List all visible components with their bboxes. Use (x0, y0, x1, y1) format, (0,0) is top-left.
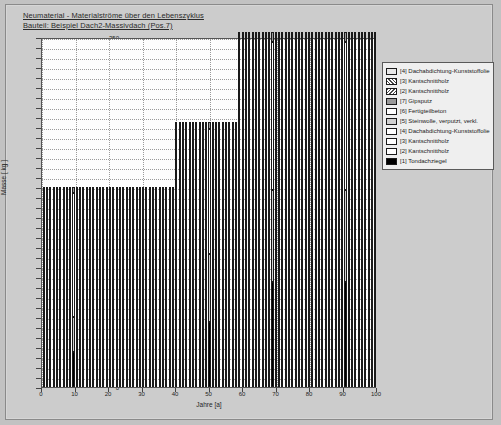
bar-segment (126, 317, 128, 352)
bar-segment (351, 282, 353, 387)
bar-segment (321, 190, 323, 282)
bar-column (315, 32, 317, 387)
bar-segment (159, 193, 161, 317)
bar-segment (222, 322, 224, 387)
bar-segment (374, 282, 376, 387)
legend-item[interactable]: [4] Dachabdichtung-Kunststoffolie (386, 126, 490, 136)
bar-segment (155, 193, 157, 317)
chart-legend[interactable]: [4] Dachabdichtung-Kunststoffolie[3] Kan… (382, 62, 494, 170)
bar-segment (305, 282, 307, 387)
bar-segment (155, 187, 157, 193)
legend-item[interactable]: [1] Tondachziegel (386, 156, 490, 166)
bar-segment (76, 187, 78, 193)
bar-segment (43, 352, 45, 387)
bar-segment (205, 254, 207, 322)
bar-column (361, 32, 363, 387)
bar-segment (92, 187, 94, 193)
bar-segment (328, 32, 330, 42)
bar-segment (341, 190, 343, 282)
bar-segment (199, 122, 201, 129)
legend-item[interactable]: [5] Steinwolle, verputzt, verkl. (386, 116, 490, 126)
bar-column (49, 187, 51, 387)
bar-segment (371, 42, 373, 190)
bar-segment (155, 317, 157, 352)
bar-segment (79, 193, 81, 317)
bar-segment (341, 282, 343, 387)
bar-segment (49, 317, 51, 352)
bar-segment (218, 122, 220, 129)
legend-item[interactable]: [7] Gipsputz (386, 96, 490, 106)
bar-column (301, 32, 303, 387)
bar-segment (175, 254, 177, 322)
legend-label: [1] Tondachziegel (400, 158, 447, 164)
bar-segment (331, 32, 333, 42)
bar-segment (208, 129, 210, 254)
bar-column (169, 187, 171, 387)
bar-column (116, 187, 118, 387)
bar-segment (136, 352, 138, 387)
bar-segment (159, 317, 161, 352)
bar-column (195, 122, 197, 387)
bar-segment (63, 193, 65, 317)
bar-segment (364, 42, 366, 190)
bar-segment (215, 122, 217, 129)
bar-segment (195, 129, 197, 254)
bar-segment (278, 42, 280, 190)
bar-segment (159, 187, 161, 193)
bar-segment (106, 187, 108, 193)
bar-segment (238, 190, 240, 282)
bar-segment (96, 187, 98, 193)
bar-segment (142, 317, 144, 352)
bar-column (139, 187, 141, 387)
bar-segment (92, 193, 94, 317)
legend-item[interactable]: [4] Dachabdichtung-Kunststoffolie (386, 66, 490, 76)
bar-segment (291, 282, 293, 387)
bar-segment (318, 190, 320, 282)
bar-segment (228, 322, 230, 387)
bar-column (278, 32, 280, 387)
bar-segment (63, 187, 65, 193)
bar-segment (325, 282, 327, 387)
bar-column (258, 32, 260, 387)
legend-label: [3] Kantschnittholz (400, 78, 449, 84)
bar-column (69, 187, 71, 387)
bar-segment (275, 282, 277, 387)
bar-segment (189, 129, 191, 254)
bar-segment (46, 352, 48, 387)
legend-item[interactable]: [2] Kantschnittholz (386, 86, 490, 96)
bar-segment (66, 317, 68, 352)
bar-column (318, 32, 320, 387)
bar-segment (162, 317, 164, 352)
bar-segment (258, 190, 260, 282)
bar-segment (291, 190, 293, 282)
bar-column (351, 32, 353, 387)
bar-segment (53, 317, 55, 352)
bar-segment (69, 317, 71, 352)
bar-column (268, 32, 270, 387)
legend-item[interactable]: [6] Fertigteilbeton (386, 106, 490, 116)
bar-segment (358, 32, 360, 42)
bar-segment (308, 32, 310, 42)
bar-segment (82, 187, 84, 193)
bar-segment (315, 282, 317, 387)
bar-segment (295, 282, 297, 387)
bar-segment (265, 190, 267, 282)
bar-column (298, 32, 300, 387)
x-axis-tick-mark (41, 388, 42, 392)
legend-item[interactable]: [3] Kantschnittholz (386, 76, 490, 86)
bar-column (199, 122, 201, 387)
bar-column (122, 187, 124, 387)
bar-segment (79, 317, 81, 352)
bar-segment (281, 282, 283, 387)
bar-segment (139, 352, 141, 387)
bar-segment (258, 42, 260, 190)
bar-segment (205, 322, 207, 387)
bar-segment (255, 42, 257, 190)
bar-segment (265, 42, 267, 190)
bar-segment (358, 282, 360, 387)
legend-item[interactable]: [2] Kantschnittholz (386, 146, 490, 156)
bar-segment (82, 317, 84, 352)
legend-item[interactable]: [3] Kantschnittholz (386, 136, 490, 146)
bar-segment (136, 317, 138, 352)
bar-segment (252, 282, 254, 387)
